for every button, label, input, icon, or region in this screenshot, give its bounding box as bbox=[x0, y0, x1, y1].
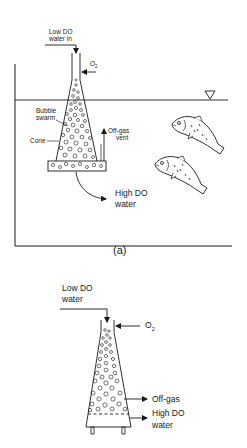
tank-outline bbox=[15, 64, 232, 246]
cone-label: Cone bbox=[30, 137, 46, 144]
bubble-swarm bbox=[51, 79, 102, 169]
fish-icon bbox=[172, 116, 224, 154]
outlet-label-line2: water bbox=[114, 199, 136, 209]
outlet-label-line1: High DO bbox=[152, 408, 185, 418]
offgas-label: Off-gas bbox=[152, 394, 180, 404]
inlet-label-line2: water in bbox=[48, 35, 72, 42]
inlet-arrow bbox=[45, 45, 76, 53]
support-leg bbox=[91, 427, 94, 434]
water-level-marker-icon bbox=[205, 91, 215, 99]
inlet-arrow bbox=[60, 309, 107, 322]
cone-oxygenator bbox=[86, 320, 131, 434]
outlet-label-line2: water bbox=[151, 420, 173, 430]
oxygen-label: O2 bbox=[145, 320, 155, 332]
support-leg bbox=[122, 427, 125, 434]
offgas-vent-label-line2: vent bbox=[116, 134, 128, 141]
outlet-label-line1: High DO bbox=[115, 188, 148, 198]
inlet-label-line2: water bbox=[61, 294, 83, 304]
figure-a: Low DO water in bbox=[15, 28, 232, 256]
figure-a-caption: (a) bbox=[113, 244, 126, 256]
diagram-figure: Low DO water in bbox=[0, 0, 247, 448]
bubble-swarm-label-line1: Bubble bbox=[36, 107, 57, 114]
figure-b: Low DO water bbox=[60, 283, 185, 434]
inlet-label-line1: Low DO bbox=[62, 283, 93, 293]
fish-icon bbox=[155, 156, 207, 194]
cone-oxygenator bbox=[48, 53, 106, 171]
outlet-flow-arrow bbox=[76, 172, 106, 199]
bubble-swarm-label-line2: swarm bbox=[36, 114, 55, 121]
inlet-label-line1: Low DO bbox=[49, 28, 72, 35]
oxygen-label: O2 bbox=[90, 60, 98, 69]
